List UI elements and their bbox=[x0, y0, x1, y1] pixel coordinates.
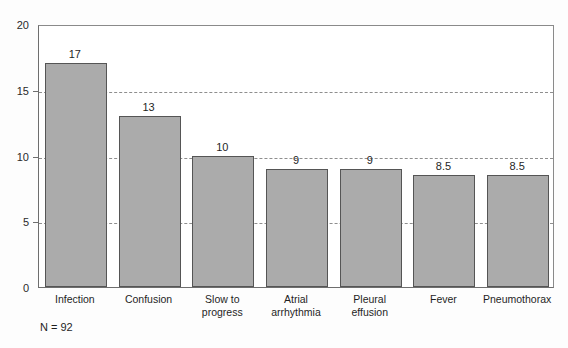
x-category-label-line: Pneumothorax bbox=[480, 293, 554, 306]
x-category-label: Pleuraleffusion bbox=[333, 293, 407, 319]
x-category-label: Slow toprogress bbox=[185, 293, 259, 319]
y-tick-label: 15 bbox=[0, 86, 29, 97]
x-category-label-line: arrhythmia bbox=[259, 306, 333, 319]
y-tick-label: 10 bbox=[0, 152, 29, 163]
sample-size-annotation: N = 92 bbox=[40, 321, 73, 334]
x-category-label-line: progress bbox=[185, 306, 259, 319]
bar-value-label: 10 bbox=[176, 142, 268, 153]
x-category-label-line: Infection bbox=[38, 293, 112, 306]
x-category-label: Infection bbox=[38, 293, 112, 306]
x-category-label: Pneumothorax bbox=[480, 293, 554, 306]
bar bbox=[45, 63, 107, 287]
x-category-label-line: Slow to bbox=[185, 293, 259, 306]
y-tick-label: 0 bbox=[0, 283, 29, 294]
bar bbox=[340, 169, 402, 287]
y-tick-label: 20 bbox=[0, 20, 29, 31]
bar-value-label: 8.5 bbox=[471, 161, 563, 172]
bar bbox=[192, 156, 254, 288]
bar-value-label: 17 bbox=[29, 49, 121, 60]
y-tick-label: 5 bbox=[0, 217, 29, 228]
x-category-label-line: Confusion bbox=[112, 293, 186, 306]
bar bbox=[119, 116, 181, 287]
bar-value-label: 13 bbox=[103, 102, 195, 113]
x-category-label-line: Atrial bbox=[259, 293, 333, 306]
gridline bbox=[39, 92, 553, 93]
y-axis: 05101520 bbox=[0, 25, 38, 288]
bar bbox=[266, 169, 328, 287]
bar-chart-figure: 05101520 N = 92 17Infection13Confusion10… bbox=[0, 0, 568, 348]
x-category-label: Atrialarrhythmia bbox=[259, 293, 333, 319]
x-category-label: Fever bbox=[407, 293, 481, 306]
x-category-label: Confusion bbox=[112, 293, 186, 306]
bar bbox=[413, 175, 475, 287]
x-category-label-line: effusion bbox=[333, 306, 407, 319]
bar bbox=[487, 175, 549, 287]
x-category-label-line: Pleural bbox=[333, 293, 407, 306]
x-category-label-line: Fever bbox=[407, 293, 481, 306]
